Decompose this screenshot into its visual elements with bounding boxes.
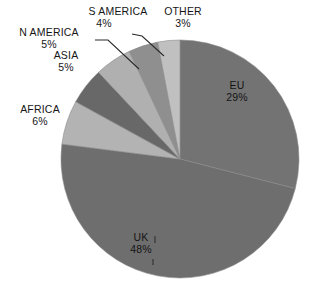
pie-label-africa-name: AFRICA — [2, 104, 78, 116]
pie-label-s-america-value: 4% — [48, 18, 160, 30]
pie-label-s-america: S AMERICA 4% — [76, 6, 160, 30]
pie-slice-group — [61, 40, 299, 278]
pie-label-other-value: 3% — [152, 18, 214, 30]
pie-label-asia-value: 5% — [36, 62, 96, 74]
pie-label-n-america-value: 5% — [6, 39, 92, 51]
pie-label-uk-name: UK — [118, 232, 164, 244]
pie-label-n-america: N AMERICA 5% — [6, 27, 92, 51]
pie-chart: N AMERICA 5% ASIA 5% AFRICA 6% S AMERICA… — [0, 0, 316, 292]
pie-label-eu-name: EU — [214, 80, 260, 92]
pie-label-uk-value: 48% — [118, 244, 164, 256]
pie-label-africa: AFRICA 6% — [2, 104, 78, 128]
pie-label-asia: ASIA 5% — [36, 50, 96, 74]
pie-label-eu-value: 29% — [214, 92, 260, 104]
pie-label-asia-name: ASIA — [36, 50, 96, 62]
pie-label-other: OTHER 3% — [152, 6, 214, 30]
pie-label-eu: EU 29% — [214, 80, 260, 104]
pie-label-s-america-name: S AMERICA — [76, 6, 160, 18]
pie-label-uk: UK 48% — [118, 232, 164, 256]
pie-label-africa-value: 6% — [2, 116, 78, 128]
pie-label-other-name: OTHER — [152, 6, 214, 18]
